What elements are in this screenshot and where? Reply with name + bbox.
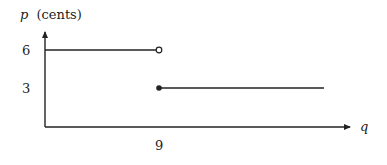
x-tick-9: 9 xyxy=(155,138,163,153)
y-tick-6: 6 xyxy=(22,43,30,58)
y-axis-label: p (cents) xyxy=(20,7,82,22)
open-endpoint-marker xyxy=(156,47,162,53)
step-function-chart: p (cents) q 6 3 9 xyxy=(0,0,387,165)
x-axis-label: q xyxy=(360,119,368,134)
y-tick-3: 3 xyxy=(22,81,30,96)
